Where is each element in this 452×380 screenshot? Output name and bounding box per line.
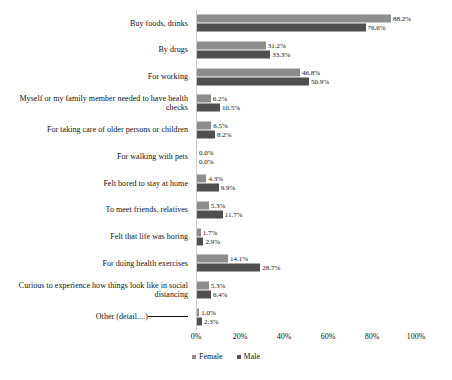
bar-group: 6.5%8.2%	[197, 121, 416, 140]
bar-female	[197, 15, 391, 23]
bar-chart: Buy foods, drinks88.2%76.6%By drugs31.2%…	[0, 0, 452, 380]
bar-group: 88.2%76.6%	[197, 14, 416, 33]
category-label: For working	[148, 72, 188, 82]
bar-value-label: 6.5%	[211, 122, 228, 130]
bar-male	[197, 51, 270, 59]
category-label-cell: Other (detail....)	[0, 303, 188, 330]
bar-slot: 2.9%	[197, 237, 416, 245]
bar-value-label: 9.9%	[219, 184, 236, 192]
bar-male	[197, 291, 211, 299]
legend-swatch-icon	[237, 355, 241, 359]
bar-group: 6.2%10.5%	[197, 94, 416, 113]
chart-row: To meet friends, relatives5.3%11.7%	[196, 197, 416, 224]
chart-legend: FemaleMale	[0, 352, 452, 361]
legend-label: Male	[244, 352, 260, 361]
bar-group: 0.0%0.0%	[197, 147, 416, 166]
bar-value-label: 50.9%	[309, 77, 329, 85]
bar-slot: 1.0%	[197, 308, 416, 316]
chart-row: Myself or my family member needed to hav…	[196, 90, 416, 117]
bar-slot: 5.3%	[197, 202, 416, 210]
bar-value-label: 8.2%	[215, 131, 232, 139]
category-label: Buy foods, drinks	[130, 19, 188, 29]
bar-male	[197, 77, 309, 85]
category-label-cell: Felt that life was boring	[0, 223, 188, 250]
chart-row: Buy foods, drinks88.2%76.6%	[196, 10, 416, 37]
bar-slot: 8.2%	[197, 131, 416, 139]
category-label-cell: For taking care of older persons or chil…	[0, 117, 188, 144]
legend-item-female[interactable]: Female	[192, 352, 223, 361]
x-axis-tick: 40%	[277, 332, 292, 341]
bar-group: 14.1%28.7%	[197, 254, 416, 273]
chart-row: Felt that life was boring1.7%2.9%	[196, 223, 416, 250]
legend-swatch-icon	[192, 355, 196, 359]
bar-male	[197, 264, 260, 272]
bar-value-label: 10.5%	[220, 104, 240, 112]
chart-rows: Buy foods, drinks88.2%76.6%By drugs31.2%…	[196, 10, 416, 330]
bar-slot: 9.9%	[197, 184, 416, 192]
category-label: Felt that life was boring	[110, 232, 188, 242]
x-axis-tick: 100%	[407, 332, 426, 341]
bar-slot: 46.8%	[197, 68, 416, 76]
bar-slot: 33.3%	[197, 51, 416, 59]
x-axis-tick: 60%	[321, 332, 336, 341]
category-label-cell: By drugs	[0, 37, 188, 64]
bar-slot: 4.3%	[197, 175, 416, 183]
bar-group: 4.3%9.9%	[197, 174, 416, 193]
bar-value-label: 2.9%	[203, 237, 220, 245]
category-label-cell: For doing health exercises	[0, 250, 188, 277]
bar-group: 5.3%11.7%	[197, 201, 416, 220]
bar-male	[197, 131, 215, 139]
bar-value-label: 0.0%	[197, 157, 214, 165]
category-label-cell: Felt bored to stay at home	[0, 170, 188, 197]
chart-row: For doing health exercises14.1%28.7%	[196, 250, 416, 277]
chart-row: By drugs31.2%33.3%	[196, 37, 416, 64]
bar-slot: 28.7%	[197, 264, 416, 272]
bar-male	[197, 24, 366, 32]
x-axis-tick: 0%	[191, 332, 202, 341]
bar-female	[197, 282, 209, 290]
category-label-cell: Buy foods, drinks	[0, 10, 188, 37]
bar-slot: 6.5%	[197, 122, 416, 130]
x-axis-tick: 80%	[365, 332, 380, 341]
bar-slot: 0.0%	[197, 157, 416, 165]
bar-female	[197, 95, 211, 103]
bar-slot: 11.7%	[197, 211, 416, 219]
bar-value-label: 28.7%	[260, 264, 280, 272]
bar-group: 1.7%2.9%	[197, 227, 416, 246]
bar-value-label: 4.3%	[206, 175, 223, 183]
bar-value-label: 31.2%	[266, 42, 286, 50]
chart-row: Felt bored to stay at home4.3%9.9%	[196, 170, 416, 197]
bar-female	[197, 175, 206, 183]
bar-value-label: 1.0%	[199, 308, 216, 316]
x-axis-tick: 20%	[233, 332, 248, 341]
bar-value-label: 5.3%	[209, 202, 226, 210]
plot-area: Buy foods, drinks88.2%76.6%By drugs31.2%…	[196, 10, 416, 330]
bar-male	[197, 184, 219, 192]
category-label-cell: Curious to experience how things look li…	[0, 277, 188, 304]
chart-row: Other (detail....)1.0%2.3%	[196, 303, 416, 330]
legend-item-male[interactable]: Male	[237, 352, 260, 361]
bar-value-label: 6.2%	[211, 95, 228, 103]
bar-value-label: 76.6%	[366, 24, 386, 32]
bar-male	[197, 211, 223, 219]
bar-slot: 1.7%	[197, 228, 416, 236]
category-label: Myself or my family member needed to hav…	[0, 94, 188, 113]
bar-value-label: 46.8%	[300, 68, 320, 76]
bar-slot: 76.6%	[197, 24, 416, 32]
bar-value-label: 1.7%	[201, 228, 218, 236]
category-label: For walking with pets	[117, 152, 188, 162]
category-label: For doing health exercises	[103, 259, 189, 269]
bar-value-label: 6.4%	[211, 291, 228, 299]
bar-slot: 88.2%	[197, 15, 416, 23]
bar-female	[197, 68, 300, 76]
category-label-cell: For walking with pets	[0, 143, 188, 170]
bar-value-label: 33.3%	[270, 51, 290, 59]
bar-slot: 14.1%	[197, 255, 416, 263]
chart-row: For working46.8%50.9%	[196, 63, 416, 90]
chart-row: For taking care of older persons or chil…	[196, 117, 416, 144]
bar-value-label: 0.0%	[197, 148, 214, 156]
bar-group: 31.2%33.3%	[197, 41, 416, 60]
bar-slot: 50.9%	[197, 77, 416, 85]
bar-value-label: 88.2%	[391, 15, 411, 23]
bar-group: 1.0%2.3%	[197, 307, 416, 326]
